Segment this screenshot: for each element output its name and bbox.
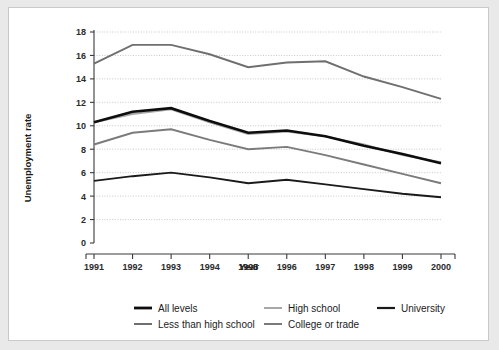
chart-figure-panel: 024681012141618 199119921993199419951996… xyxy=(8,7,489,341)
legend-item-college-or-trade[interactable]: College or trade xyxy=(264,319,360,330)
series-line-high-school xyxy=(94,109,441,162)
x-tick-label-1996: 1996 xyxy=(277,262,297,272)
x-axis-ticks: 1991199219931994199519961997199819992000 xyxy=(84,254,455,272)
y-tick-label-8: 8 xyxy=(81,145,86,155)
y-tick-label-18: 18 xyxy=(76,27,86,37)
x-axis-title: Year xyxy=(239,261,259,272)
legend-item-high-school[interactable]: High school xyxy=(264,303,340,314)
series-line-university xyxy=(94,173,441,198)
series-line-less-than-high-school xyxy=(94,45,441,99)
y-tick-label-6: 6 xyxy=(81,168,86,178)
legend-item-university[interactable]: University xyxy=(377,303,445,314)
legend-label-college-or-trade: College or trade xyxy=(288,319,360,330)
chart-legend: All levelsHigh schoolUniversityLess than… xyxy=(134,303,445,330)
unemployment-rate-line-chart: 024681012141618 199119921993199419951996… xyxy=(9,8,488,340)
x-tick-label-1994: 1994 xyxy=(200,262,220,272)
legend-label-all-levels: All levels xyxy=(158,303,197,314)
x-tick-label-1999: 1999 xyxy=(392,262,412,272)
x-tick-label-1992: 1992 xyxy=(123,262,143,272)
y-tick-label-12: 12 xyxy=(76,98,86,108)
x-tick-label-2000: 2000 xyxy=(431,262,451,272)
legend-label-high-school: High school xyxy=(288,303,340,314)
x-tick-label-1991: 1991 xyxy=(84,262,104,272)
x-tick-label-1993: 1993 xyxy=(161,262,181,272)
y-tick-label-4: 4 xyxy=(81,192,86,202)
y-tick-label-0: 0 xyxy=(81,238,86,248)
x-tick-label-1998: 1998 xyxy=(354,262,374,272)
y-axis-ticks: 024681012141618 xyxy=(76,27,94,248)
y-tick-label-14: 14 xyxy=(76,74,86,84)
legend-label-less-than-high-school: Less than high school xyxy=(158,319,255,330)
x-tick-label-1997: 1997 xyxy=(315,262,335,272)
series-line-all-levels xyxy=(94,108,441,163)
y-tick-label-10: 10 xyxy=(76,121,86,131)
legend-label-university: University xyxy=(401,303,445,314)
y-tick-label-16: 16 xyxy=(76,51,86,61)
data-series-lines xyxy=(94,45,441,197)
legend-item-all-levels[interactable]: All levels xyxy=(134,303,197,314)
y-tick-label-2: 2 xyxy=(81,215,86,225)
legend-item-less-than-high-school[interactable]: Less than high school xyxy=(134,319,255,330)
y-axis-title: Unemployment rate xyxy=(22,114,33,203)
